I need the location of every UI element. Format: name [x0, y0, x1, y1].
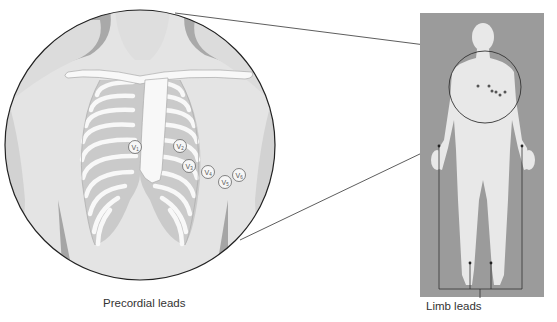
electrode-v4: V4	[202, 166, 215, 179]
electrode-v6: V6	[233, 169, 246, 182]
electrode-v5: V5	[219, 176, 232, 189]
limb-leads-label: Limb leads	[426, 300, 482, 312]
precordial-leads-label: Precordial leads	[103, 297, 185, 309]
ecg-diagram: V1 V2 V3 V4 V5 V6	[0, 0, 557, 322]
full-body-figure	[420, 13, 544, 298]
electrode-v2: V2	[174, 140, 187, 153]
electrode-v3: V3	[183, 160, 196, 173]
electrode-v1: V1	[129, 141, 142, 154]
magnified-chest: V1 V2 V3 V4 V5 V6	[0, 0, 280, 290]
